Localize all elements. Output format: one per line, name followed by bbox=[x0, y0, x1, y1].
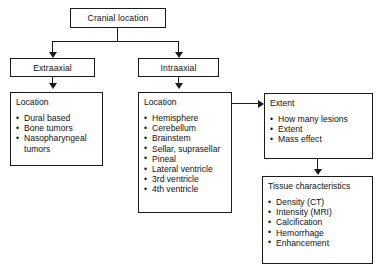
node-extent: Extent How many lesions Extent Mass effe… bbox=[264, 93, 373, 159]
list-item: Calcification bbox=[268, 217, 372, 227]
arrow-to-intraaxial-location-icon bbox=[175, 83, 183, 89]
arrow-to-extraaxial-location-icon bbox=[49, 83, 57, 89]
node-cranial-location-label: Cranial location bbox=[88, 13, 149, 23]
connector-root-stem bbox=[117, 28, 118, 42]
list-item: Nasopharyngeal tumors bbox=[16, 133, 102, 153]
list-item: Brainstem bbox=[144, 133, 231, 143]
node-cranial-location: Cranial location bbox=[70, 8, 166, 28]
list-item: Pineal bbox=[144, 154, 231, 164]
node-intraaxial-location: Location Hemisphere Cerebellum Brainstem… bbox=[138, 92, 232, 213]
connector-split-left bbox=[52, 41, 53, 52]
node-intraaxial: Intraaxial bbox=[138, 58, 219, 77]
list-item: How many lesions bbox=[270, 114, 372, 124]
list-item: Bone tumors bbox=[16, 123, 102, 133]
intraaxial-location-list: Hemisphere Cerebellum Brainstem Sellar, … bbox=[144, 113, 231, 195]
node-extraaxial-label: Extraaxial bbox=[33, 63, 72, 73]
node-extraaxial: Extraaxial bbox=[10, 58, 95, 77]
node-tissue-characteristics: Tissue characteristics Density (CT) Inte… bbox=[262, 176, 373, 264]
extraaxial-location-heading: Location bbox=[16, 97, 102, 108]
intraaxial-location-heading: Location bbox=[144, 97, 231, 108]
extent-list: How many lesions Extent Mass effect bbox=[270, 114, 372, 145]
list-item: Hemorrhage bbox=[268, 228, 372, 238]
tissue-characteristics-heading: Tissue characteristics bbox=[268, 181, 372, 192]
list-item: Hemisphere bbox=[144, 113, 231, 123]
node-intraaxial-label: Intraaxial bbox=[161, 63, 197, 73]
list-item: Density (CT) bbox=[268, 197, 372, 207]
list-item: Sellar, suprasellar bbox=[144, 144, 231, 154]
list-item: 4th ventricle bbox=[144, 184, 231, 194]
extent-heading: Extent bbox=[270, 98, 372, 109]
list-item: 3rd ventricle bbox=[144, 174, 231, 184]
list-item: Lateral ventricle bbox=[144, 164, 231, 174]
list-item: Cerebellum bbox=[144, 123, 231, 133]
list-item: Dural based bbox=[16, 113, 102, 123]
list-item: Extent bbox=[270, 124, 372, 134]
tissue-characteristics-list: Density (CT) Intensity (MRI) Calcificati… bbox=[268, 197, 372, 248]
arrow-to-tissue-characteristics-icon bbox=[314, 169, 322, 175]
list-item: Enhancement bbox=[268, 238, 372, 248]
list-item: Intensity (MRI) bbox=[268, 207, 372, 217]
extraaxial-location-list: Dural based Bone tumors Nasopharyngeal t… bbox=[16, 113, 102, 154]
node-extraaxial-location: Location Dural based Bone tumors Nasopha… bbox=[10, 92, 103, 166]
list-item: Mass effect bbox=[270, 134, 372, 144]
connector-location-to-extent bbox=[232, 103, 259, 104]
connector-split-bar bbox=[52, 41, 179, 42]
connector-split-right bbox=[178, 41, 179, 52]
